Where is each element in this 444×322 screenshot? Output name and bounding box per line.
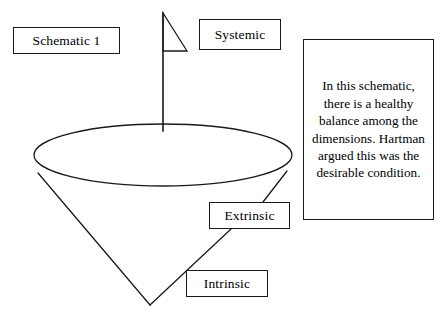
label-box-systemic: Systemic [199,19,281,50]
label-box-extrinsic: Extrinsic [209,202,290,229]
cone-left-side-line [38,173,150,305]
cone-right-side-line [263,171,287,202]
systemic-label: Systemic [215,28,266,42]
schematic-diagram-canvas: Schematic 1 Systemic Extrinsic Intrinsic… [0,0,444,322]
flag-banner-icon [163,13,187,51]
intrinsic-label: Intrinsic [204,277,250,291]
label-box-intrinsic: Intrinsic [186,270,268,297]
extrinsic-label: Extrinsic [224,209,274,223]
caption-panel: In this schematic, there is a healthy ba… [303,39,434,220]
caption-text: In this schematic, there is a healthy ba… [312,77,425,182]
schematic-title-label: Schematic 1 [32,34,100,48]
cone-rim-ellipse [34,124,292,186]
schematic-title-box: Schematic 1 [13,27,120,54]
